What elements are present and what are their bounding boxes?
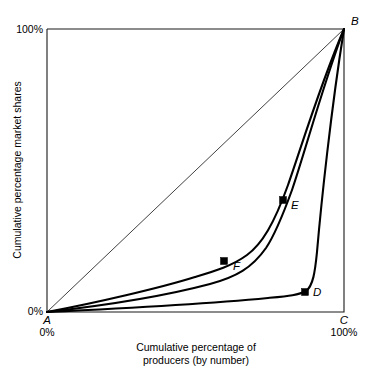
x-tick-label-100: 100%	[331, 326, 358, 338]
data-marker-f	[221, 258, 228, 265]
corner-label-b: B	[351, 15, 359, 27]
x-axis-title-line2: producers (by number)	[143, 354, 249, 366]
y-axis-title: Cumulative percentage market shares	[11, 81, 23, 258]
data-marker-e	[280, 197, 287, 204]
point-label-f: F	[233, 260, 241, 272]
x-axis-title-line1: Cumulative percentage of	[136, 341, 256, 353]
corner-label-c: C	[340, 314, 349, 326]
x-tick-label-0: 0%	[39, 326, 54, 338]
line-of-equality	[47, 29, 344, 312]
chart-canvas: E F D B A C 100% 0% 0% 100% Cumulative p…	[0, 0, 375, 372]
corner-label-a: A	[42, 314, 51, 326]
point-label-d: D	[313, 286, 321, 298]
y-tick-label-100: 100%	[16, 23, 43, 35]
data-marker-d	[302, 289, 309, 296]
point-label-e: E	[291, 199, 299, 211]
lorenz-curve-figure: E F D B A C 100% 0% 0% 100% Cumulative p…	[0, 0, 375, 372]
y-tick-label-0: 0%	[28, 305, 43, 317]
